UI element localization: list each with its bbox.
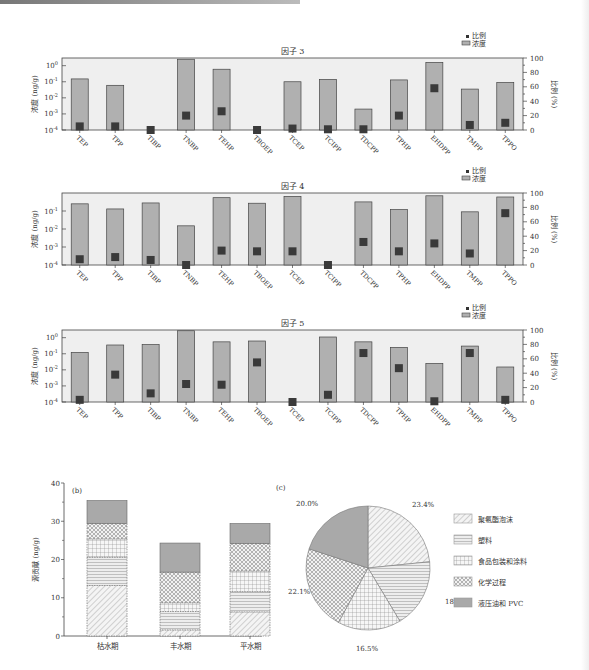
legend-label: 聚氨酯泡沫 [478, 515, 513, 524]
ratio-marker [501, 396, 509, 404]
pie-value-label: 20.0% [296, 500, 319, 508]
y-tick-label: 10-4 [44, 397, 58, 407]
legend-bar-icon [462, 313, 470, 317]
x-tick-label: TNBP [181, 269, 201, 289]
stack-segment [87, 539, 127, 557]
ratio-marker [147, 389, 155, 397]
stack-segment [87, 557, 127, 585]
x-tick-label: TEHP [216, 134, 236, 154]
x-tick-label: TBOEP [252, 134, 275, 157]
x-tick-label: TMPP [464, 269, 484, 289]
bar [213, 342, 230, 402]
x-tick-label: TPP [110, 269, 125, 284]
y2-tick-label: 100 [530, 55, 543, 63]
y2-tick-label: 80 [530, 341, 539, 349]
bar [390, 210, 407, 265]
x-tick-label: TPHP [393, 406, 412, 425]
x-tick-label: TCIPP [323, 134, 344, 155]
factor-panel-4: 因子 410-410-310-210-1浓度 (ng/g)02040608010… [30, 166, 559, 292]
ratio-marker [395, 112, 403, 120]
pie-panel-c: (c)23.4%18.0%16.5%22.1%20.0%聚氨酯泡沫塑料食品包装和… [276, 484, 527, 653]
ratio-marker [395, 247, 403, 255]
ratio-marker [111, 122, 119, 130]
y2-tick-label: 0 [530, 262, 534, 270]
ratio-marker [430, 84, 438, 92]
ratio-marker [430, 239, 438, 247]
legend-label-concentration: 浓度 [472, 174, 486, 183]
y-tick-label: 20 [51, 556, 60, 564]
y2-tick-label: 100 [530, 327, 543, 335]
legend-label-ratio: 比例 [472, 303, 486, 312]
stack-segment [230, 543, 270, 571]
y-tick-label: 10-3 [44, 242, 58, 252]
ratio-marker [324, 391, 332, 399]
x-tick-label: EHDPP [429, 406, 452, 429]
legend-label: 化学过程 [478, 578, 506, 587]
x-tick-label: TDCPP [358, 269, 381, 292]
ratio-marker [253, 358, 261, 366]
bar [71, 79, 88, 130]
legend-label-concentration: 浓度 [472, 39, 486, 48]
y-tick-label: 40 [51, 480, 60, 488]
y-tick-label: 100 [46, 60, 58, 70]
ratio-marker [501, 119, 509, 127]
y2-tick-label: 100 [530, 190, 543, 198]
y-tick-label: 10-1 [44, 76, 58, 86]
bar [71, 352, 88, 402]
bar [390, 347, 407, 402]
x-tick-label: TCIPP [323, 406, 344, 427]
ratio-marker [359, 125, 367, 133]
bar [249, 203, 266, 265]
figure-canvas: 因子 310-410-310-210-1100浓度 (ng/g)02040608… [0, 0, 589, 670]
x-tick-label: 丰水期 [170, 641, 191, 651]
x-tick-label: TEP [74, 269, 90, 285]
y2-tick-label: 0 [530, 127, 534, 135]
pie-value-label: 16.5% [356, 645, 379, 653]
legend-label-ratio: 比例 [472, 31, 486, 40]
panel-label-c: (c) [276, 484, 286, 492]
ratio-marker [111, 253, 119, 261]
ratio-marker [359, 238, 367, 246]
legend-swatch-icon [454, 535, 472, 544]
legend-bar-icon [462, 176, 470, 180]
x-tick-label: TPP [110, 134, 125, 149]
y-tick-label: 30 [51, 518, 60, 526]
x-tick-label: TBOEP [252, 269, 275, 292]
y-tick-label: 10-1 [44, 348, 58, 358]
pie-slice [368, 506, 430, 568]
y2-tick-label: 40 [530, 233, 539, 241]
x-tick-label: TCIPP [323, 269, 344, 290]
y2-tick-label: 80 [530, 204, 539, 212]
x-tick-label: 枯水期 [97, 641, 118, 651]
stack-segment [87, 586, 127, 636]
ratio-marker [430, 397, 438, 405]
x-tick-label: TDCPP [358, 134, 381, 157]
panel-title: 因子 3 [281, 47, 305, 56]
y-tick-label: 10-4 [44, 125, 58, 135]
bar [390, 80, 407, 130]
ratio-marker [147, 256, 155, 264]
bar [426, 363, 443, 402]
stack-segment [230, 524, 270, 544]
ratio-marker [395, 364, 403, 372]
x-tick-label: TEHP [216, 269, 236, 289]
x-tick-label: TEP [74, 134, 90, 150]
legend-marker-icon [466, 35, 469, 38]
y2-axis-label: 比例 (%) [550, 352, 559, 381]
pie-value-label: 22.1% [288, 588, 311, 596]
x-tick-label: 平水期 [240, 641, 261, 651]
stack-segment [230, 592, 270, 612]
stack-segment [230, 571, 270, 592]
ratio-marker [76, 255, 84, 263]
x-tick-label: TIBP [145, 134, 162, 151]
bar [142, 203, 159, 265]
stack-segment [160, 612, 200, 630]
y2-tick-label: 60 [530, 218, 539, 226]
ratio-marker [218, 247, 226, 255]
y2-tick-label: 20 [530, 247, 539, 255]
y-tick-label: 10 [51, 594, 60, 602]
x-tick-label: TNBP [181, 406, 201, 426]
panel-label-b: (b) [72, 487, 82, 495]
ratio-marker [182, 112, 190, 120]
x-tick-label: TCEP [287, 406, 306, 425]
